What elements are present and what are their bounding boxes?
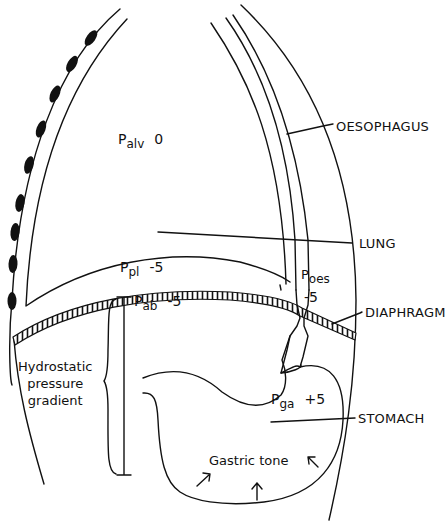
pressure-subscript: pl	[128, 265, 139, 279]
diaphragm-leader	[332, 312, 362, 324]
lung-right-edge	[211, 23, 286, 284]
pressure-value: +5	[304, 391, 325, 407]
lung-leader	[158, 232, 352, 243]
oesophageal-pressure-value: -5	[304, 290, 318, 304]
diagram-drawing	[0, 0, 446, 527]
hydrostatic-brace	[104, 299, 116, 474]
pab-tick	[280, 285, 281, 290]
oesophageal-pressure-label: Poes	[301, 268, 330, 285]
body-wall-right	[241, 5, 356, 520]
lung-label: LUNG	[359, 237, 396, 250]
pressure-value: -5	[149, 259, 163, 275]
hydrostatic-line-2: pressure	[18, 375, 92, 392]
hydrostatic-line-1: Hydrostatic	[18, 358, 92, 375]
stomach-label: STOMACH	[358, 412, 425, 425]
diagram-canvas: Palv0 Ppl-5 Pab-5 Poes -5 Pga+5 OESOPHAG…	[0, 0, 446, 527]
gastric-tone-label: Gastric tone	[209, 454, 288, 467]
gastric-pressure-label: Pga+5	[271, 392, 325, 410]
hydrostatic-bar	[117, 297, 131, 475]
diaphragm-label: DIAPHRAGM	[365, 306, 446, 319]
oesophagus-wall-right	[233, 15, 309, 290]
oesophagus-label: OESOPHAGUS	[336, 120, 429, 133]
pressure-symbol: P	[301, 267, 309, 282]
hydrostatic-line-3: gradient	[18, 392, 92, 409]
pressure-subscript: ab	[142, 299, 157, 313]
stomach-outline	[143, 336, 290, 405]
pressure-subscript: ga	[279, 397, 294, 411]
stomach-greater-curvature	[143, 366, 343, 504]
pressure-subscript: oes	[309, 272, 330, 286]
pressure-subscript: alv	[126, 137, 144, 151]
alveolar-pressure-label: Palv0	[118, 132, 163, 150]
hydrostatic-gradient-label: Hydrostatic pressure gradient	[18, 358, 92, 409]
abdominal-pressure-label: Pab-5	[134, 294, 181, 312]
pleural-pressure-label: Ppl-5	[120, 260, 163, 278]
oesophagus-wall-left	[226, 18, 296, 290]
rib-marks	[8, 28, 100, 310]
pressure-value: -5	[167, 293, 181, 309]
pressure-value: 0	[154, 131, 163, 147]
